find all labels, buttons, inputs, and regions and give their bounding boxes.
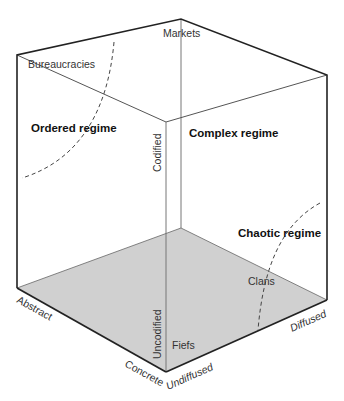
i-space-cube-diagram: Markets Bureaucracies Clans Fiefs Ordere…: [0, 0, 344, 401]
top-inner-right-edge: [166, 75, 327, 122]
label-chaotic-regime: Chaotic regime: [238, 227, 321, 239]
label-uncodified: Uncodified: [151, 309, 163, 359]
label-clans: Clans: [248, 275, 275, 287]
label-codified: Codified: [151, 133, 163, 172]
label-complex-regime: Complex regime: [189, 127, 278, 139]
label-ordered-regime: Ordered regime: [31, 122, 117, 134]
label-bureaucracies: Bureaucracies: [28, 58, 95, 70]
label-markets: Markets: [163, 27, 200, 39]
label-fiefs: Fiefs: [172, 339, 195, 351]
